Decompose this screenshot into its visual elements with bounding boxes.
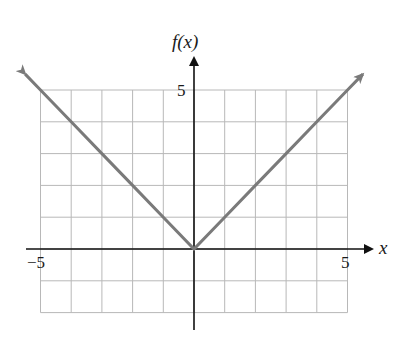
x-tick-label-neg5: −5 <box>27 253 45 272</box>
y-tick-label-5: 5 <box>177 81 186 100</box>
y-axis-label: f(x) <box>172 31 198 53</box>
x-tick-label-5: 5 <box>341 253 350 272</box>
absolute-value-graph: f(x) x 5 −5 5 <box>0 0 417 338</box>
x-axis-label: x <box>378 237 388 258</box>
